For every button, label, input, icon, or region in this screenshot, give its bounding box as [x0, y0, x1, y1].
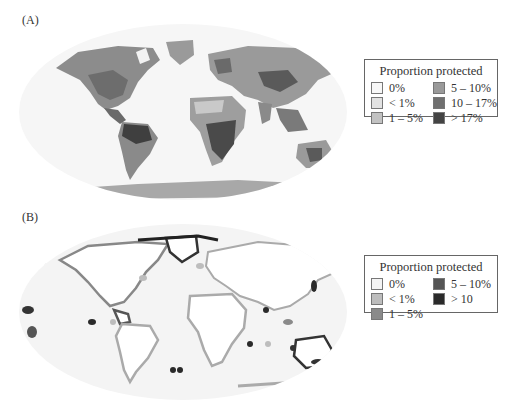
marine-protection-map	[18, 222, 348, 402]
swatch-icon	[433, 293, 445, 305]
legend-item-lt1pct: < 1%	[371, 292, 423, 306]
swatch-icon	[371, 308, 383, 320]
swatch-icon	[433, 112, 445, 124]
legend-panel-a: Proportion protected 0% 5 – 10% < 1% 10 …	[364, 59, 498, 117]
legend-item-10-17pct: 10 – 17%	[433, 96, 497, 110]
legend-title: Proportion protected	[371, 260, 491, 275]
legend-item-gt10: > 10	[433, 292, 491, 306]
swatch-icon	[371, 97, 383, 109]
legend-item-0pct: 0%	[371, 277, 423, 291]
legend-item-1-5pct: 1 – 5%	[371, 307, 423, 321]
legend-item-1-5pct: 1 – 5%	[371, 111, 423, 125]
legend-item-5-10pct: 5 – 10%	[433, 81, 497, 95]
legend-title: Proportion protected	[371, 64, 491, 79]
legend-item-0pct: 0%	[371, 81, 423, 95]
swatch-icon	[371, 112, 383, 124]
swatch-icon	[371, 278, 383, 290]
swatch-icon	[371, 293, 383, 305]
legend-item-gt17pct: > 17%	[433, 111, 497, 125]
swatch-icon	[433, 278, 445, 290]
legend-panel-b: Proportion protected 0% 5 – 10% < 1% > 1…	[364, 255, 498, 313]
legend-item-5-10pct: 5 – 10%	[433, 277, 491, 291]
terrestrial-protection-map	[18, 20, 348, 200]
legend-item-lt1pct: < 1%	[371, 96, 423, 110]
swatch-icon	[433, 97, 445, 109]
swatch-icon	[433, 82, 445, 94]
swatch-icon	[371, 82, 383, 94]
